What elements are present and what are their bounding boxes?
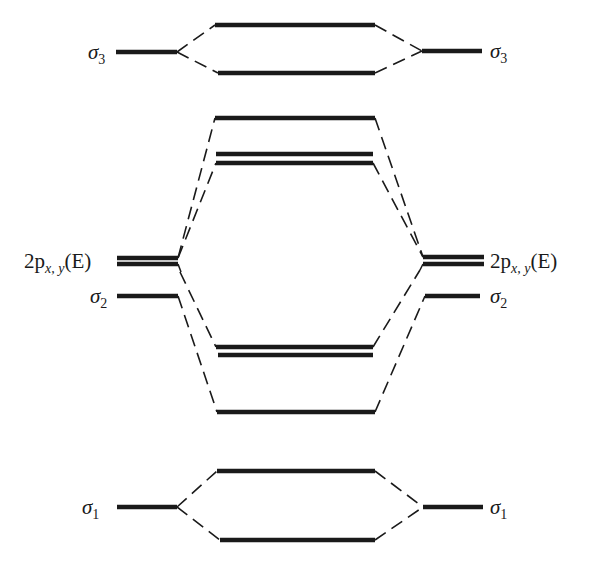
correlation-line bbox=[178, 118, 215, 258]
sigma3-right-label: σ3 bbox=[490, 39, 507, 66]
sigma1-left-label: σ1 bbox=[82, 495, 99, 522]
2p-xy-E-left-label: 2px, y(E) bbox=[24, 249, 91, 276]
sigma1-correlation-line bbox=[177, 507, 220, 540]
sigma3-correlation-line bbox=[375, 25, 422, 51]
correlation-line bbox=[178, 264, 181, 272]
sigma1-correlation-line bbox=[375, 507, 423, 540]
fragment-levels bbox=[117, 257, 484, 296]
2p-xy-E-right-label: 2px, y(E) bbox=[490, 249, 557, 276]
correlation-line bbox=[375, 296, 425, 412]
correlation-line bbox=[375, 118, 423, 257]
central-mo-levels bbox=[215, 118, 375, 412]
correlation-line bbox=[373, 270, 420, 347]
sigma3-group: σ3 σ3 bbox=[88, 25, 507, 73]
correlation-line bbox=[420, 264, 423, 270]
correlation-line bbox=[178, 296, 217, 412]
sigma3-left-label: σ3 bbox=[88, 40, 105, 67]
sigma1-right-label: σ1 bbox=[490, 495, 507, 522]
sigma3-correlation-line bbox=[375, 51, 422, 73]
sigma1-group: σ1 σ1 bbox=[82, 471, 507, 540]
sigma2-left-label: σ2 bbox=[90, 284, 107, 311]
sigma1-correlation-line bbox=[375, 471, 423, 507]
correlation-line bbox=[373, 163, 423, 257]
sigma3-correlation-line bbox=[177, 52, 218, 73]
correlation-line bbox=[180, 272, 216, 347]
sigma1-correlation-line bbox=[177, 471, 217, 507]
sigma3-correlation-line bbox=[177, 25, 215, 52]
sigma2-right-label: σ2 bbox=[490, 284, 507, 311]
mo-correlation-diagram: σ3 σ3 2px, y(E) σ2 2px, y(E) bbox=[0, 0, 596, 562]
correlation-line bbox=[178, 163, 216, 258]
